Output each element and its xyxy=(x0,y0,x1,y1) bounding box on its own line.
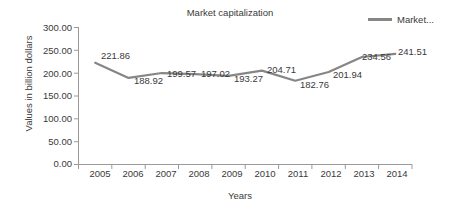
data-label: 201.94 xyxy=(333,69,362,80)
data-label: 204.71 xyxy=(267,64,296,75)
data-label: 221.86 xyxy=(101,50,130,61)
data-label: 234.56 xyxy=(362,51,391,62)
data-label: 182.76 xyxy=(300,79,329,90)
y-axis-ticks xyxy=(74,28,79,165)
data-label: 193.27 xyxy=(234,73,263,84)
plot-area xyxy=(0,0,465,211)
data-label: 188.92 xyxy=(134,75,163,86)
data-label: 197.02 xyxy=(201,68,230,79)
chart-container: Market capitalization Market... Values i… xyxy=(0,0,465,211)
data-label: 199.57 xyxy=(167,68,196,79)
x-axis-ticks xyxy=(79,165,413,170)
data-label: 241.51 xyxy=(398,46,427,57)
